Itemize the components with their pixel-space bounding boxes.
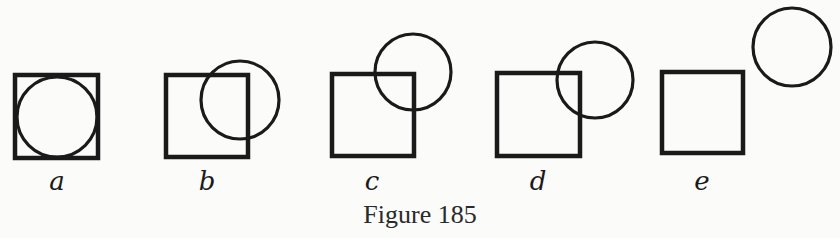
square-b (166, 75, 248, 157)
square-d (497, 73, 580, 156)
panel-label-d: d (530, 166, 547, 196)
square-e (662, 72, 743, 153)
circle-e (753, 8, 831, 86)
panel-a (15, 75, 98, 158)
circle-a (17, 77, 97, 157)
circle-d (557, 42, 633, 118)
panel-label-c: c (365, 166, 380, 196)
square-c (332, 74, 414, 156)
figure-caption: Figure 185 (363, 200, 476, 230)
panel-b (166, 61, 279, 157)
panel-label-e: e (694, 166, 709, 196)
panel-c (332, 34, 451, 156)
panel-label-b: b (199, 166, 216, 196)
circle-b (201, 61, 279, 139)
panel-d (497, 42, 633, 156)
panel-label-a: a (49, 166, 65, 196)
panel-e (662, 8, 831, 153)
